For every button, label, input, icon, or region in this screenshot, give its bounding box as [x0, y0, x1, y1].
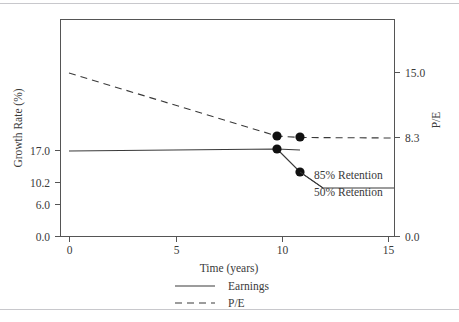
y2tick-label-0: 0.0 — [405, 231, 420, 243]
y2-axis-title: P/E — [430, 112, 442, 129]
annotation-85-retention: 85% Retention — [314, 169, 383, 181]
xtick-label-15: 15 — [383, 244, 395, 256]
xtick-label-10: 10 — [277, 244, 289, 256]
series-pe-line — [69, 73, 394, 138]
page-rule-bottom — [0, 309, 459, 310]
page-rule-top — [0, 3, 459, 4]
left-axis-ticks — [55, 151, 61, 237]
y2tick-label-8-3: 8.3 — [405, 132, 420, 144]
chart-figure: 17.0 10.2 6.0 0.0 Growth Rate (%) 15.0 8… — [0, 0, 459, 322]
earnings-marker-year10 — [272, 144, 281, 153]
legend-label-earnings: Earnings — [228, 280, 269, 293]
annotation-50-retention: 50% Retention — [314, 186, 383, 198]
chart-svg: 17.0 10.2 6.0 0.0 Growth Rate (%) 15.0 8… — [0, 0, 459, 322]
plot-frame — [61, 20, 395, 237]
legend-label-pe: P/E — [228, 297, 245, 309]
pe-marker-year10 — [272, 131, 281, 140]
xtick-label-5: 5 — [174, 244, 180, 256]
y2tick-label-15: 15.0 — [405, 67, 425, 79]
ytick-label-10-2: 10.2 — [30, 177, 50, 189]
ytick-label-6: 6.0 — [36, 199, 51, 211]
x-axis-title: Time (years) — [200, 262, 259, 275]
ytick-label-17: 17.0 — [30, 145, 50, 157]
right-axis-ticks — [395, 73, 401, 237]
y-axis-title: Growth Rate (%) — [12, 88, 25, 167]
x-axis-ticks — [70, 237, 389, 243]
series-earnings-85-line — [69, 149, 300, 151]
ytick-label-0: 0.0 — [36, 231, 51, 243]
pe-marker-year11 — [295, 132, 304, 141]
xtick-label-0: 0 — [67, 244, 73, 256]
